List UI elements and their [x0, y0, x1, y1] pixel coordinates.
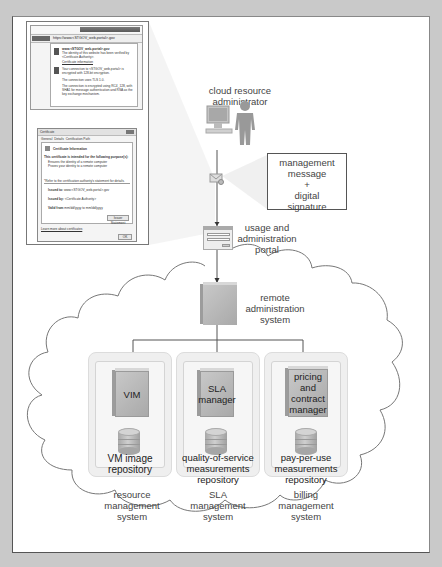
vm-image-repository-label: VM image repository	[93, 453, 167, 475]
browser-window: https://www.<STGOV_web-portal>.gov www.<…	[30, 25, 143, 110]
callout-line: management	[268, 157, 346, 168]
dialog-title: Certificate	[40, 130, 54, 134]
nav-buttons-icon	[32, 36, 50, 41]
issued-by-label: Issued by:	[48, 197, 64, 201]
tab-general[interactable]: General	[41, 137, 52, 141]
valid-from-label: Valid from	[48, 206, 63, 210]
portal-label: usage and administration portal	[236, 222, 298, 255]
url-text: https://www.<STGOV_web-portal>.gov	[53, 35, 115, 42]
qos-repository-icon	[205, 428, 227, 454]
sla-manager-component: SLA manager	[197, 368, 235, 418]
popup-identity-text: The identity of this website has been ve…	[62, 51, 134, 59]
browser-tab-bar	[31, 26, 142, 33]
qos-repository-label: quality-of-service measurements reposito…	[176, 452, 260, 485]
popup-cipher-text: The connection is encrypted using RC4_12…	[62, 84, 134, 96]
lock-icon	[54, 48, 59, 55]
callout-line: message	[268, 168, 346, 179]
issued-to-value: www.<STGOV_web-portal>.gov	[64, 188, 109, 192]
dialog-title-bar: Certificate	[38, 129, 136, 136]
certificate-screenshot-inset: https://www.<STGOV_web-portal>.gov www.<…	[26, 21, 149, 245]
vm-image-repository-icon	[118, 428, 140, 454]
callout-line: +	[268, 179, 346, 190]
sla-management-label: SLA management system	[183, 489, 253, 522]
issued-by-value: <Certificate Authority>	[65, 197, 96, 201]
certificate-info-link[interactable]: Certificate information	[62, 60, 134, 64]
vim-component: VIM	[112, 368, 150, 418]
ca-note: *Refer to the certification authority's …	[44, 179, 130, 184]
popup-tls-text: The connection uses TLS 1.0.	[62, 78, 134, 82]
management-message-callout: management message + digital signature	[267, 153, 347, 210]
valid-from-value: mm/dd/yyyy to mm/dd/yyyy	[64, 206, 102, 210]
remote-admin-server	[200, 282, 238, 326]
purpose-text: This certificate is intended for the fol…	[44, 155, 130, 159]
close-icon[interactable]	[126, 130, 134, 134]
tab-details[interactable]: Details	[54, 137, 64, 141]
dialog-body: Certificate Information This certificate…	[41, 142, 133, 224]
sla-manager-label: SLA manager	[200, 371, 234, 417]
portal-window-icon	[203, 226, 233, 250]
callout-wedge	[222, 155, 267, 209]
callout-line: signature	[268, 201, 346, 212]
pricing-contract-manager-component: pricing and contract manager	[285, 366, 329, 418]
learn-more-link[interactable]: Learn more about certificates	[41, 227, 82, 231]
popup-encryption-text: Your connection to <STGOV_web-portal> is…	[62, 67, 134, 75]
address-bar[interactable]: https://www.<STGOV_web-portal>.gov	[31, 34, 142, 43]
certificate-icon	[45, 146, 50, 151]
certificate-dialog: Certificate General Details Certificatio…	[37, 128, 137, 242]
pay-per-use-repository-icon	[295, 428, 317, 454]
remote-admin-label: remote administration system	[240, 292, 310, 325]
resource-management-label: resource management system	[95, 489, 169, 522]
billing-management-label: billing management system	[270, 489, 342, 522]
pricing-manager-label: pricing and contract manager	[288, 369, 328, 417]
purpose-item: Proves your identity to a remote compute…	[48, 164, 107, 168]
pay-per-use-repository-label: pay-per-use measurements repository	[264, 452, 348, 485]
callout-line: digital	[268, 190, 346, 201]
issued-to-label: Issued to:	[48, 188, 63, 192]
lock-icon	[54, 67, 59, 74]
dialog-heading: Certificate Information	[53, 147, 87, 151]
security-popup: www.<STGOV_web-portal>.gov The identity …	[50, 43, 138, 107]
person-icon	[233, 100, 257, 150]
envelope-icon	[209, 172, 225, 186]
vim-label: VIM	[115, 371, 149, 417]
ok-button[interactable]: OK	[118, 234, 132, 240]
tab-certification-path[interactable]: Certification Path	[66, 137, 90, 141]
issuer-statement-button[interactable]: Issuer Statement	[107, 215, 129, 221]
